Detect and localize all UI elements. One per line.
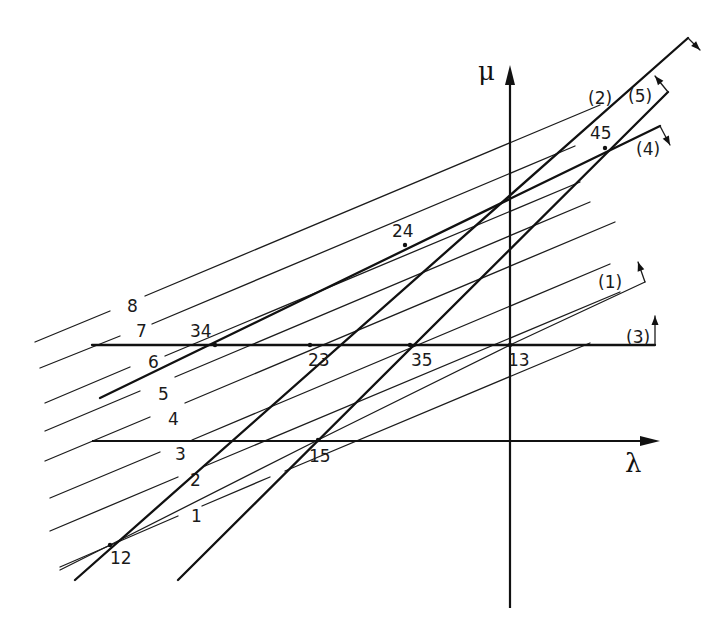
level-line-5: 5 xyxy=(45,202,590,431)
vertex-label: 15 xyxy=(309,446,331,466)
constraint-diagram: 12345678 (1)(2)(3)(4)(5) μ λ 12151334233… xyxy=(0,0,706,634)
level-line-label: 4 xyxy=(168,409,179,429)
lambda-axis-label: λ xyxy=(625,448,641,478)
level-line-segment xyxy=(145,105,600,296)
vertex-point xyxy=(408,343,412,347)
vertex-45: 45 xyxy=(590,123,612,150)
vertex-label: 13 xyxy=(508,350,530,370)
level-line-segment xyxy=(285,343,590,471)
level-line-8: 8 xyxy=(35,105,600,342)
vertex-point xyxy=(603,146,607,150)
constraint-line-path xyxy=(75,38,688,580)
level-line-label: 7 xyxy=(136,321,147,341)
vertex-point xyxy=(316,438,320,442)
level-line-4: 4 xyxy=(45,222,615,461)
level-line-label: 3 xyxy=(175,444,186,464)
vertex-label: 24 xyxy=(392,221,414,241)
constraint-line-2: (2) xyxy=(75,38,700,580)
vertex-point xyxy=(403,243,407,247)
vertex-point xyxy=(108,543,112,547)
vertex-label: 35 xyxy=(411,350,433,370)
lambda-axis-arrow-icon xyxy=(640,436,660,446)
vertex-12: 12 xyxy=(108,543,132,568)
direction-arrow-icon xyxy=(663,135,670,145)
vertex-24: 24 xyxy=(392,221,414,247)
constraint-line-4: (4) xyxy=(100,126,670,398)
level-line-7: 7 xyxy=(40,146,575,368)
mu-axis-label: μ xyxy=(478,56,495,86)
constraint-line-1: (1) xyxy=(60,262,645,570)
vertex-label: 34 xyxy=(190,321,212,341)
level-line-label: 8 xyxy=(127,296,138,316)
level-line-segment xyxy=(45,367,130,403)
constraint-line-label: (4) xyxy=(636,139,660,159)
vertex-13: 13 xyxy=(508,343,530,370)
direction-arrow-icon xyxy=(638,262,645,272)
direction-arrow-icon xyxy=(652,316,659,325)
vertex-point xyxy=(308,343,312,347)
level-line-segment xyxy=(45,417,150,461)
level-line-label: 1 xyxy=(191,506,202,526)
level-line-segment xyxy=(165,182,580,356)
constraint-line-5: (5) xyxy=(178,76,668,580)
constraint-line-label: (2) xyxy=(588,88,612,108)
level-line-label: 5 xyxy=(158,384,169,404)
vertex-point xyxy=(508,343,512,347)
level-line-segment xyxy=(40,336,120,368)
mu-axis-arrow-icon xyxy=(505,65,515,85)
constraint-line-path xyxy=(178,92,668,580)
constraint-line-label: (1) xyxy=(598,272,622,292)
constraint-line-path xyxy=(100,126,660,398)
level-line-segment xyxy=(185,222,615,403)
level-line-segment xyxy=(35,311,110,342)
constraint-line-label: (3) xyxy=(626,327,650,347)
vertex-label: 45 xyxy=(590,123,612,143)
constraint-lines: (1)(2)(3)(4)(5) xyxy=(60,38,700,580)
vertex-label: 23 xyxy=(308,350,330,370)
constraint-line-path xyxy=(60,282,645,570)
constraint-line-label: (5) xyxy=(628,86,652,106)
level-line-segment xyxy=(50,477,178,531)
vertex-point xyxy=(213,343,217,347)
vertex-label: 12 xyxy=(110,548,132,568)
constraint-line-3: (3) xyxy=(92,316,659,347)
